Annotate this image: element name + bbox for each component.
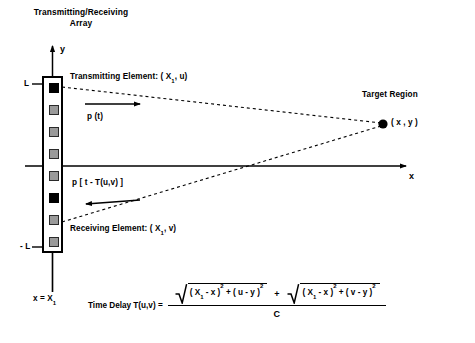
radicand-2-sub: 1	[313, 294, 316, 300]
receiving-element-subscript: 1	[160, 230, 163, 236]
radicand-1-exp1: 2	[220, 283, 223, 289]
transducer-array[interactable]	[42, 76, 63, 253]
array-element-7[interactable]	[49, 215, 59, 225]
radicand-1-minus: - x )	[204, 288, 221, 297]
transmitting-element-text-post: , u)	[175, 72, 188, 81]
diagram-title-line1: Transmitting/Receiving	[18, 7, 144, 18]
array-position-text: x = X	[33, 294, 53, 303]
target-region-label: Target Region	[362, 90, 418, 100]
radicand-1-exp2: 2	[260, 283, 263, 289]
transmitting-element-subscript: 1	[171, 78, 174, 84]
formula-radical-1: ( X1 - x )2 + ( u - y )2	[174, 283, 268, 304]
transmitting-element-text-pre: Transmitting Element: ( X	[70, 72, 171, 81]
transmit-ray	[62, 87, 381, 123]
radicand-2-minus: - x )	[316, 288, 333, 297]
radicand-1-open: ( X	[190, 288, 200, 297]
y-axis-label: y	[60, 44, 65, 55]
received-signal-label: p [ t - T(u,v) ]	[72, 178, 123, 188]
formula-operator: +	[267, 283, 286, 299]
radicand-2-exp1: 2	[333, 283, 336, 289]
formula-radical-2: ( X1 - x )2 + ( v - y )2	[286, 283, 379, 304]
target-point-label: ( x , y )	[391, 118, 418, 128]
formula-numerator: ( X1 - x )2 + ( u - y )2 + ( X1 - x )2 +…	[168, 283, 386, 305]
array-position-label: x = X1	[33, 294, 56, 306]
receive-direction-arrow	[86, 200, 140, 204]
target-point-dot	[378, 119, 387, 128]
diagram-title-line2: Array	[18, 18, 144, 29]
array-element-3[interactable]	[49, 127, 59, 137]
formula-fraction: ( X1 - x )2 + ( u - y )2 + ( X1 - x )2 +…	[168, 283, 386, 319]
receiving-element-text-post: , v)	[164, 224, 176, 233]
receiving-element-text-pre: Receiving Element: ( X	[70, 224, 160, 233]
formula-denominator: C	[273, 306, 280, 319]
array-element-1[interactable]	[49, 83, 59, 93]
lower-bound-label: - L	[20, 242, 30, 252]
radicand-1-plus: + ( u - y )	[224, 288, 260, 297]
formula-radicand-2: ( X1 - x )2 + ( v - y )2	[300, 283, 379, 299]
array-element-6[interactable]	[49, 193, 59, 203]
receiving-element-label: Receiving Element: ( X1, v)	[70, 224, 176, 236]
upper-bound-label: L	[24, 79, 29, 89]
radical-sign-icon-1	[175, 283, 188, 304]
transmitting-element-label: Transmitting Element: ( X1, u)	[70, 72, 187, 84]
x-axis-label: x	[409, 171, 414, 182]
radicand-2-plus: + ( v - y )	[336, 288, 372, 297]
receive-ray	[62, 126, 381, 222]
array-position-subscript: 1	[53, 300, 56, 306]
radical-sign-icon-2	[287, 283, 300, 304]
radicand-2-exp2: 2	[372, 283, 375, 289]
transmitted-signal-label: p (t)	[87, 112, 103, 122]
radicand-1-sub: 1	[200, 294, 203, 300]
diagram-title: Transmitting/Receiving Array	[18, 7, 144, 29]
formula-radicand-1: ( X1 - x )2 + ( u - y )2	[188, 283, 268, 299]
array-element-2[interactable]	[49, 105, 59, 115]
array-element-4[interactable]	[49, 149, 59, 159]
diagram-canvas: Transmitting/Receiving Array y x L - L x…	[0, 0, 475, 343]
time-delay-formula: Time Delay T(u,v) = ( X1 - x )2 + ( u - …	[88, 283, 386, 319]
array-element-8[interactable]	[49, 237, 59, 247]
radicand-2-open: ( X	[302, 288, 312, 297]
time-delay-formula-label: Time Delay T(u,v) =	[88, 292, 168, 310]
array-element-5[interactable]	[49, 171, 59, 181]
